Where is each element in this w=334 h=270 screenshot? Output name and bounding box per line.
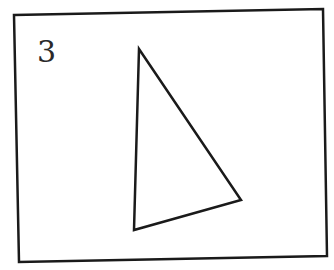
figure-frame bbox=[14, 9, 327, 262]
figure-number-label: 3 bbox=[37, 34, 56, 69]
triangle-shape bbox=[134, 49, 241, 230]
figure-canvas: 3 bbox=[0, 0, 334, 270]
